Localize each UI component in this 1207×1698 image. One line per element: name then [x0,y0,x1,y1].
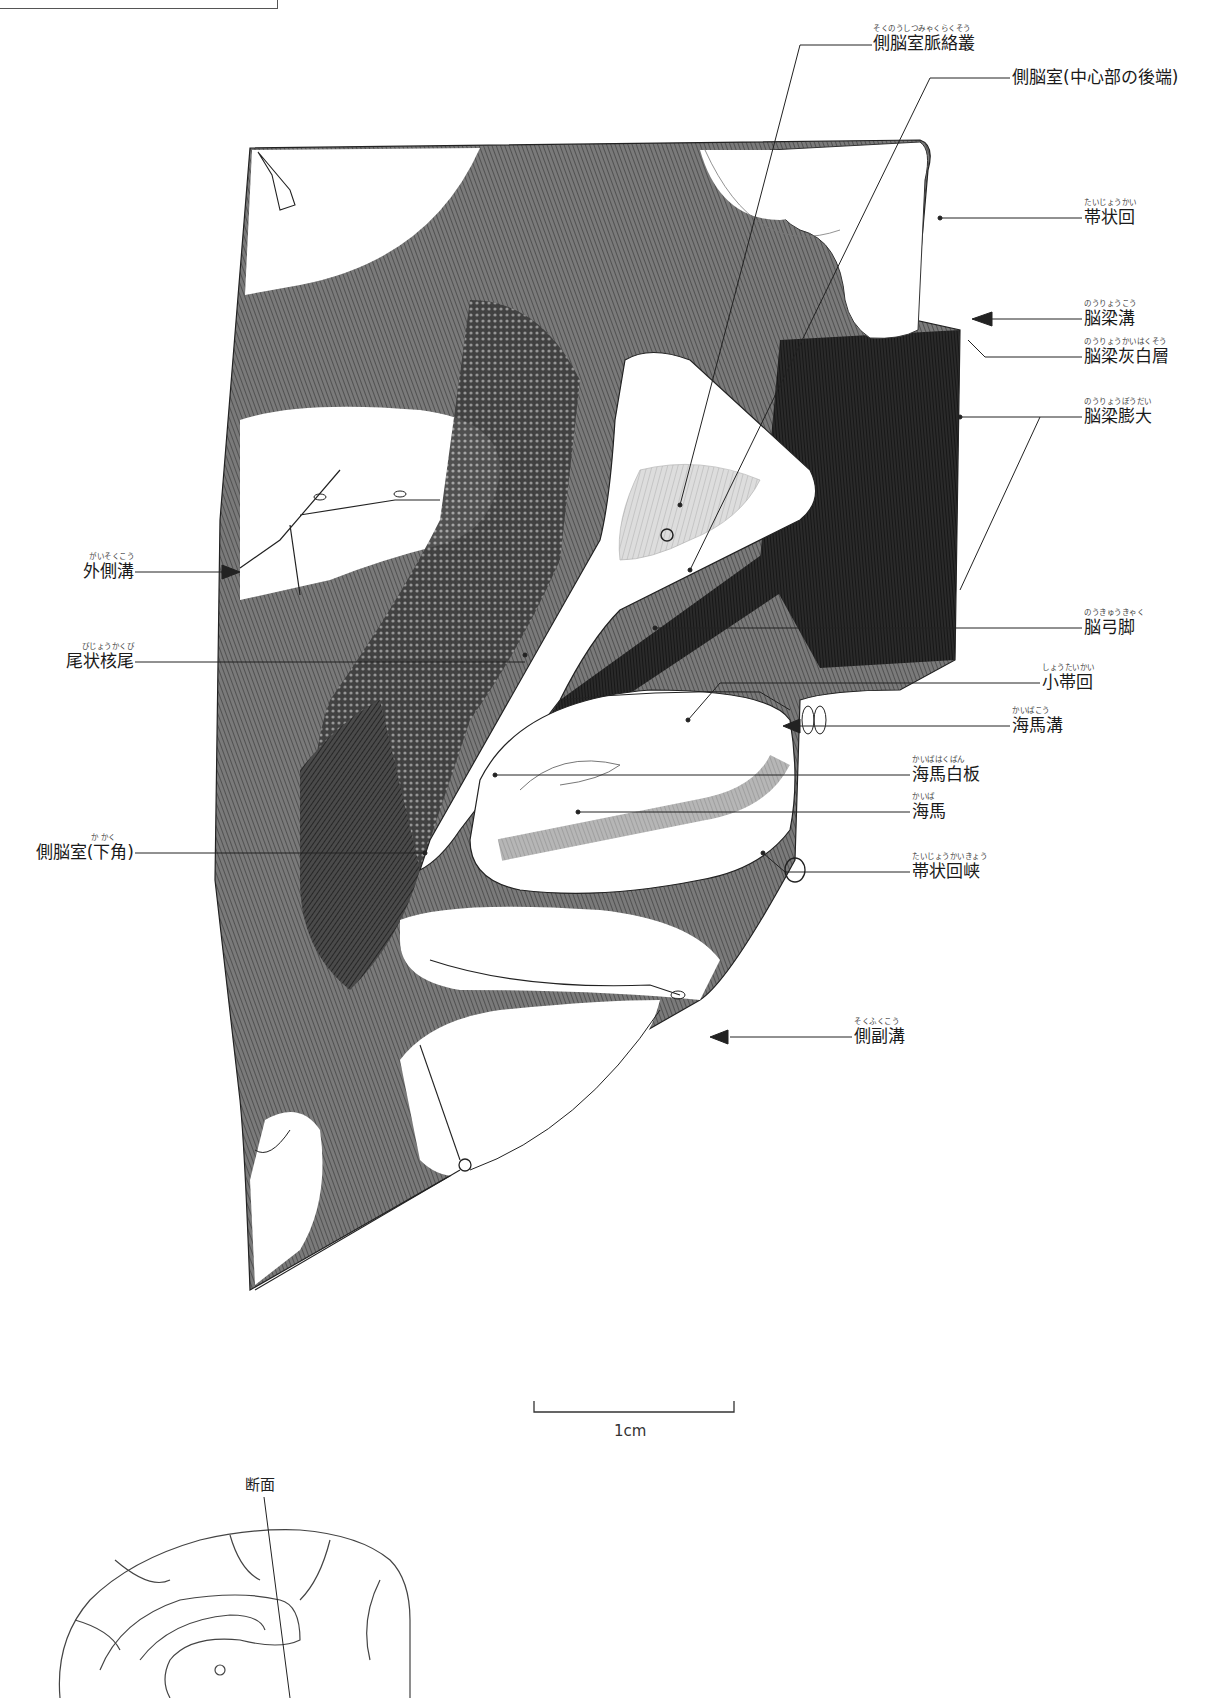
label-fornix-crus: のうきゅうきゃく 脳弓脚 [1084,609,1144,636]
label-choroid-plexus: そくのうしつみゃくらくそう 側脳室脈絡叢 [873,25,975,52]
label-caudate-tail: びじょうかくび 尾状核尾 [60,643,134,670]
scale-bar [534,1401,734,1412]
label-fasciolar-gyrus: しょうたいかい 小帯回 [1042,664,1095,691]
label-collateral-sulcus: そくふくこう 側副溝 [854,1018,905,1045]
brain-section-illustration [0,0,1207,1698]
label-lateral-ventricle-inferior: か かく 側脳室(下角) [20,834,134,861]
label-hippocampus: かいば 海馬 [912,793,946,820]
inset-brain [59,1497,410,1698]
inset-section-label: 断面 [245,1473,275,1494]
label-splenium: のうりょうぼうだい 脳梁膨大 [1084,398,1152,425]
label-callosal-sulcus: のうりょうこう 脳梁溝 [1084,300,1137,327]
label-indusium-griseum: のうりょうかいはくそう 脳梁灰白層 [1084,338,1169,365]
label-lateral-sulcus: がいそくこう 外側溝 [78,553,134,580]
label-cingulate-isthmus: たいじょうかいきょう 帯状回峡 [912,853,987,880]
label-cingulate-gyrus: たいじょうかい 帯状回 [1084,199,1137,226]
scale-bar-label: 1cm [614,1422,646,1440]
label-hippocampal-sulcus: かいばこう 海馬溝 [1012,707,1063,734]
label-lateral-ventricle-central: 側脳室(中心部の後端) [1012,69,1178,86]
label-alveus: かいばはくばん 海馬白板 [912,756,980,783]
